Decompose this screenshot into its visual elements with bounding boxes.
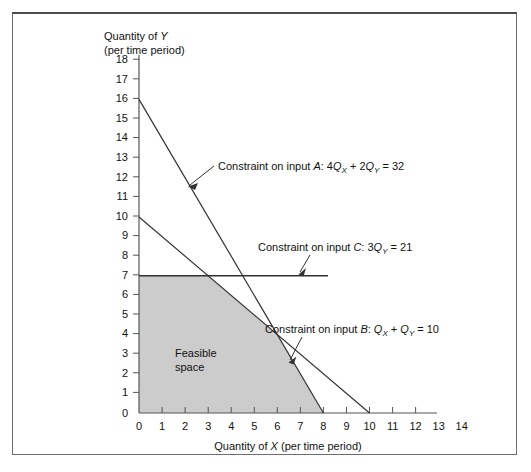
x-tick-label: 4 — [228, 420, 234, 432]
x-tick-label: 6 — [274, 420, 280, 432]
feasible-space-line2: space — [175, 361, 204, 373]
annotation-constraint-c: Constraint on input C: 3QY = 21 — [258, 241, 412, 277]
x-tick-label: 0 — [136, 420, 142, 432]
constraint-a-leader-line — [190, 166, 214, 185]
x-tick-label: 5 — [251, 420, 257, 432]
feasible-space-line1: Feasible — [175, 347, 217, 359]
y-axis-ticks — [133, 59, 139, 392]
x-tick-label: 14 — [456, 420, 468, 432]
y-tick-label: 0 — [122, 407, 128, 419]
x-tick-label: 8 — [320, 420, 326, 432]
annotation-constraint-b: Constraint on input B: QX + QY = 10 — [265, 323, 439, 365]
x-tick-label: 11 — [387, 420, 398, 432]
chart-canvas: 18 17 16 15 14 13 12 11 10 9 8 7 6 5 4 3… — [0, 0, 531, 472]
y-axis-title-line2: (per time period) — [104, 44, 185, 56]
y-tick-label: 14 — [116, 131, 128, 143]
y-tick-label: 17 — [116, 73, 128, 85]
x-tick-label: 12 — [409, 420, 421, 432]
constraint-b-leader-line — [290, 337, 302, 360]
y-tick-label: 8 — [122, 249, 128, 261]
x-tick-label: 9 — [343, 420, 349, 432]
x-tick-label: 2 — [182, 420, 188, 432]
y-tick-label: 1 — [122, 386, 128, 398]
y-tick-label: 6 — [122, 288, 128, 300]
y-tick-label: 12 — [116, 171, 128, 183]
x-tick-label: 1 — [159, 420, 165, 432]
x-tick-label: 3 — [205, 420, 211, 432]
x-tick-label: 13 — [433, 420, 445, 432]
y-tick-label: 11 — [117, 190, 128, 202]
y-tick-label: 5 — [122, 308, 128, 320]
constraint-c-label: Constraint on input C: 3QY = 21 — [258, 241, 412, 256]
x-tick-label: 10 — [363, 420, 375, 432]
y-tick-label: 3 — [122, 347, 128, 359]
constraint-a-label: Constraint on input A: 4QX + 2QY = 32 — [218, 160, 404, 175]
y-tick-label: 9 — [122, 229, 128, 241]
y-tick-label: 2 — [122, 367, 128, 379]
y-tick-label: 15 — [116, 112, 128, 124]
constraint-a-arrowhead — [188, 183, 198, 190]
x-tick-label: 7 — [297, 420, 303, 432]
y-tick-label: 10 — [116, 210, 128, 222]
y-tick-label: 16 — [116, 92, 128, 104]
x-axis-title: Quantity of X (per time period) — [214, 440, 361, 452]
feasible-region-fill — [139, 276, 323, 413]
y-axis-title-line1: Quantity of Y — [104, 30, 168, 42]
constraint-b-label: Constraint on input B: QX + QY = 10 — [265, 323, 439, 338]
y-tick-label: 13 — [116, 151, 128, 163]
y-tick-label: 4 — [122, 327, 128, 339]
y-tick-label: 7 — [122, 269, 128, 281]
annotation-constraint-a: Constraint on input A: 4QX + 2QY = 32 — [188, 160, 404, 190]
